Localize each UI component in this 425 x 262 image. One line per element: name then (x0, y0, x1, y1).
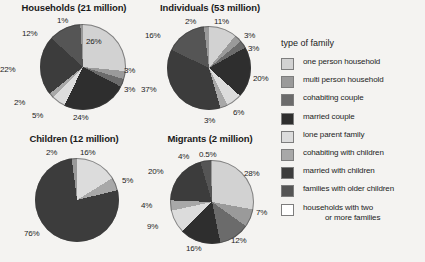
legend-item-label: families with older children (303, 184, 394, 194)
legend-item-label: households with twoor more families (303, 203, 380, 223)
slice-label-married-children: 76% (24, 229, 39, 238)
chart-title-children: Children (12 million) (0, 133, 148, 144)
slice-label-two-or-more: 2% (46, 148, 57, 157)
legend-swatch-icon (281, 113, 294, 125)
slice-label-older-children: 4% (178, 152, 189, 161)
legend-item: multi person household (281, 75, 425, 88)
slice-label-one-person: 11% (214, 17, 229, 26)
slice-label-married-couple: 20% (253, 74, 268, 83)
legend: type of family one person householdmulti… (281, 38, 425, 228)
slice-label-two-or-more: 0.5% (199, 150, 216, 159)
slice-label-multi-person: 3% (244, 31, 255, 40)
slice-label-one-person: 26% (86, 37, 101, 46)
legend-item: married with children (281, 166, 425, 179)
legend-item-label: cohabiting with children (303, 148, 384, 158)
legend-item: families with older children (281, 184, 425, 197)
legend-item: households with twoor more families (281, 203, 425, 223)
slice-label-cohabiting-children: 2% (14, 98, 25, 107)
slice-label-multi-person: 7% (256, 208, 267, 217)
legend-rows: one person householdmulti person househo… (281, 57, 425, 223)
pie-migrants (170, 160, 254, 244)
legend-swatch-icon (281, 185, 294, 197)
legend-item-label: one person household (303, 57, 380, 67)
slice-label-married-couple: 24% (73, 113, 88, 122)
legend-swatch-icon (281, 94, 294, 106)
legend-swatch-icon (281, 204, 294, 216)
chart-households: Households (21 million) 26% 3% 3% 24% 5%… (0, 2, 148, 125)
chart-title-individuals: Individuals (53 million) (140, 2, 280, 13)
chart-individuals: Individuals (53 million) 11% 3% 3% 20% 6… (140, 2, 280, 125)
slice-label-cohabiting-children: 4% (141, 201, 152, 210)
pie-wrap-children: 16% 5% 76% 2% (0, 144, 148, 256)
legend-swatch-icon (281, 131, 294, 143)
legend-item-label: married couple (303, 112, 355, 122)
slice-label-two-or-more: 1% (57, 16, 68, 25)
pie-wrap-individuals: 11% 3% 3% 20% 6% 3% 37% 16% 2% (140, 13, 280, 125)
pie-households (40, 24, 126, 110)
pie-individuals (167, 26, 251, 110)
slice-label-married-couple: 16% (186, 244, 201, 253)
slice-label-cohabiting-couple: 3% (248, 44, 259, 53)
slice-label-married-children: 20% (148, 167, 163, 176)
slice-label-married-children: 22% (0, 65, 15, 74)
slice-label-cohabiting-children: 3% (204, 116, 215, 125)
legend-swatch-icon (281, 167, 294, 179)
legend-heading: type of family (281, 38, 425, 48)
slice-label-lone-parent: 6% (233, 108, 244, 117)
slice-label-lone-parent: 5% (32, 111, 43, 120)
pie-chart-figure: Households (21 million) 26% 3% 3% 24% 5%… (0, 0, 425, 262)
slice-label-older-children: 12% (22, 29, 37, 38)
legend-item: cohabiting couple (281, 93, 425, 106)
slice-label-two-or-more: 2% (185, 17, 196, 26)
chart-children: Children (12 million) 16% 5% 76% 2% (0, 133, 148, 256)
legend-swatch-icon (281, 149, 294, 161)
slice-label-cohabiting-couple: 3% (124, 85, 135, 94)
slice-label-multi-person: 3% (124, 66, 135, 75)
legend-item-label: cohabiting couple (303, 93, 364, 103)
legend-item-label: multi person household (303, 75, 384, 85)
slice-label-older-children: 16% (145, 31, 160, 40)
chart-title-households: Households (21 million) (0, 2, 148, 13)
legend-item: cohabiting with children (281, 148, 425, 161)
slice-label-cohabiting-children: 5% (122, 176, 133, 185)
legend-item-label: married with children (303, 166, 375, 176)
slice-label-cohabiting-couple: 12% (231, 236, 246, 245)
legend-item-label: lone parent family (303, 130, 364, 140)
pie-wrap-households: 26% 3% 3% 24% 5% 2% 22% 12% 1% (0, 13, 148, 125)
legend-item: married couple (281, 112, 425, 125)
slice-label-lone-parent: 16% (80, 148, 95, 157)
slice-label-one-person: 28% (244, 169, 259, 178)
chart-title-migrants: Migrants (2 million) (140, 133, 280, 144)
slice-label-lone-parent: 9% (147, 222, 158, 231)
chart-migrants: Migrants (2 million) 28% 7% 12% 16% 9% 4… (140, 133, 280, 256)
legend-item: one person household (281, 57, 425, 70)
legend-swatch-icon (281, 76, 294, 88)
slice-label-married-children: 37% (141, 85, 156, 94)
pie-wrap-migrants: 28% 7% 12% 16% 9% 4% 20% 4% 0.5% (140, 144, 280, 256)
pie-children (35, 158, 119, 242)
legend-swatch-icon (281, 58, 294, 70)
legend-item: lone parent family (281, 130, 425, 143)
